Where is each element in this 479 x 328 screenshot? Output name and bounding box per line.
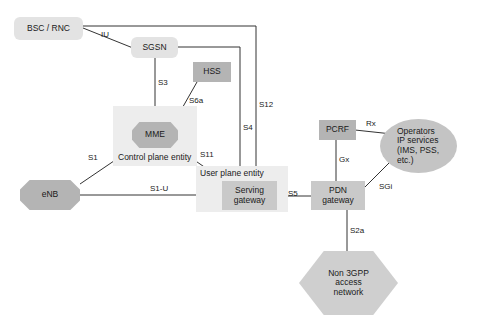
node-pcrf[interactable]: PCRF [319,120,356,140]
node-serving-gateway-label: Serving gateway [234,186,266,205]
interface-label-s1u: S1-U [150,184,168,193]
interface-label-rx: Rx [366,119,376,128]
node-hss[interactable]: HSS [193,62,231,82]
node-pdn-gateway-label: PDN gateway [322,186,354,205]
interface-label-iu: IU [101,30,109,39]
node-pcrf-label: PCRF [326,125,349,135]
node-mme[interactable]: MME [132,122,178,148]
node-operators-ip-services[interactable]: Operators IP services (IMS, PSS, etc.) [380,119,457,173]
interface-label-gx: Gx [339,155,349,164]
interface-label-sgi: SGi [379,182,392,191]
interface-label-s12: S12 [259,100,273,109]
interface-label-s2a: S2a [350,226,364,235]
interface-label-s1: S1 [88,153,98,162]
node-mme-label: MME [145,130,165,140]
node-hss-label: HSS [203,67,220,77]
interface-label-s6a: S6a [189,96,203,105]
node-sgsn[interactable]: SGSN [131,37,178,58]
node-serving-gateway[interactable]: Serving gateway [222,181,277,210]
node-pdn-gateway[interactable]: PDN gateway [311,181,365,210]
node-enb[interactable]: eNB [20,180,80,210]
interface-label-s3: S3 [158,78,168,87]
node-sgsn-label: SGSN [142,43,166,53]
interface-label-s5: S5 [288,189,298,198]
node-bsc-rnc[interactable]: BSC / RNC [14,17,83,40]
interface-label-s11: S11 [200,150,214,159]
zone-label-control-plane-entity: Control plane entity [118,152,191,162]
interface-label-s4: S4 [243,123,253,132]
zone-label-user-plane-entity: User plane entity [200,168,264,178]
network-architecture-diagram: BSC / RNC SGSN HSS MME eNB Serving gatew… [0,0,479,328]
node-operators-ip-services-label: Operators IP services (IMS, PSS, etc.) [380,127,439,165]
node-non-3gpp-access-network-label: Non 3GPP access network [328,269,369,298]
node-bsc-rnc-label: BSC / RNC [27,24,70,34]
node-enb-label: eNB [42,190,59,200]
